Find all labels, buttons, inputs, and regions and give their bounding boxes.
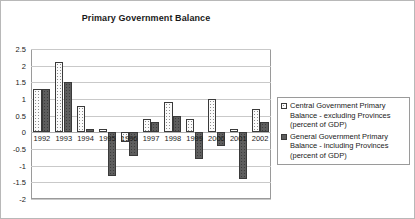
y-axis-tick-label: 1.5 [16,78,26,87]
y-axis-tick-label: -2 [19,195,26,204]
legend-swatch-general-icon [281,134,287,140]
chart-container: Primary Government Balance 2.521.510.50-… [0,0,415,219]
y-axis-tick-label: 0 [22,128,26,137]
y-axis-tick-label: 0.5 [16,111,26,120]
x-axis-tick-label: 1993 [55,134,72,143]
legend-item-central: Central Government Primary Balance - exc… [281,101,406,130]
x-axis-tick-label: 1997 [143,134,160,143]
y-axis-tick-label: -0.5 [13,145,26,154]
x-axis-tick-label: 1998 [164,134,181,143]
x-axis-tick-label: 1995 [99,134,116,143]
x-axis-tick-label: 2000 [208,134,225,143]
y-axis-tick-label: 2 [22,61,26,70]
gridline [31,199,271,200]
y-axis-tick-label: -1 [19,161,26,170]
x-axis-tick-label: 2001 [230,134,247,143]
x-axis-tick-label: 1992 [34,134,51,143]
chart-legend: Central Government Primary Balance - exc… [277,97,410,165]
legend-label-general: General Government Primary Balance - inc… [290,132,406,161]
x-axis-tick-label: 1994 [77,134,94,143]
x-axis-tick-label: 1996 [121,134,138,143]
y-axis-tick-label: 1 [22,95,26,104]
plot-area: 1992199319941995199619971998199920002001… [31,49,271,199]
x-axis-labels: 1992199319941995199619971998199920002001… [31,49,271,199]
x-axis-tick-label: 2002 [252,134,269,143]
legend-item-general: General Government Primary Balance - inc… [281,132,406,161]
x-axis-tick-label: 1999 [186,134,203,143]
chart-title: Primary Government Balance [1,13,291,23]
y-axis-tick-label: -1.5 [13,178,26,187]
legend-swatch-central-icon [281,103,287,109]
y-axis: 2.521.510.50-0.5-1-1.5-2 [1,49,29,199]
y-axis-tick-label: 2.5 [16,45,26,54]
legend-label-central: Central Government Primary Balance - exc… [290,101,406,130]
